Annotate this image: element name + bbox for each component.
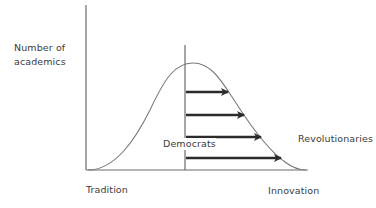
x-axis-left-label: Tradition [86, 184, 128, 196]
y-axis-label-line2: academics [14, 56, 66, 68]
y-axis-label-line1: Number of [14, 42, 65, 54]
bell-curve [88, 63, 306, 170]
revolutionaries-label: Revolutionaries [298, 133, 373, 145]
x-axis-right-label: Innovation [268, 185, 319, 197]
diagram-canvas [0, 0, 376, 208]
democrats-label: Democrats [163, 138, 216, 150]
